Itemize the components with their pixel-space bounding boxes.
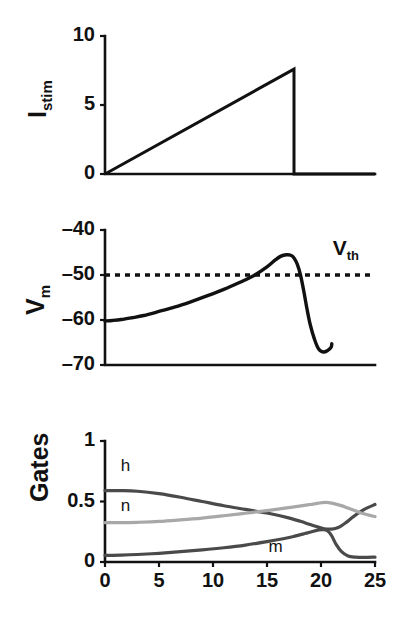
axis-title-sub: stim <box>38 80 55 111</box>
axis-title-main: I <box>23 111 51 118</box>
panel-gating-variables: Gates 00.510510152025 hnm <box>0 400 401 624</box>
y-tick-label: 1 <box>84 428 95 450</box>
y-tick-labels-istim: 0510 <box>73 23 95 183</box>
y-tick-label: –50 <box>62 262 95 284</box>
axis-title-main: Gates <box>25 433 53 502</box>
y-tick-label: –40 <box>62 217 95 239</box>
y-tick-label: 0.5 <box>67 489 95 511</box>
y-tick-label: –60 <box>62 307 95 329</box>
trace-group-istim <box>105 69 375 174</box>
tick-labels-gates: 00.510510152025 <box>67 428 386 591</box>
y-axis-title-vm: Vm <box>21 285 53 315</box>
stimulus-current-plot: Istim 0510 <box>0 0 401 205</box>
y-tick-labels-vm: –70–60–50–40 <box>62 217 95 374</box>
panel-membrane-voltage: Vm –70–60–50–40 Vth <box>0 205 401 400</box>
x-tick-label: 10 <box>202 569 224 591</box>
x-tick-label: 5 <box>153 569 164 591</box>
trace-V_m <box>105 255 332 352</box>
curve-labels-gates: hnm <box>121 456 283 555</box>
axis-spines <box>105 36 375 174</box>
y-axis-title-istim: Istim <box>23 80 55 118</box>
threshold-label-vth: Vth <box>333 236 359 263</box>
axis-title-main: V <box>21 298 49 315</box>
panel-stimulus-current: Istim 0510 <box>0 0 401 205</box>
y-tick-label: 10 <box>73 23 95 45</box>
y-tick-label: –70 <box>62 352 95 374</box>
trace-m <box>105 530 375 558</box>
y-tick-label: 0 <box>84 161 95 183</box>
curve-label-h: h <box>121 456 130 475</box>
x-tick-label: 20 <box>310 569 332 591</box>
y-tick-label: 5 <box>84 92 95 114</box>
trace-group-vm <box>105 255 332 352</box>
trace-I_stim <box>105 69 375 174</box>
y-tick-label: 0 <box>84 549 95 571</box>
trace-group-gates <box>105 491 375 558</box>
axis-title-sub: m <box>36 285 53 298</box>
x-tick-label: 0 <box>99 569 110 591</box>
membrane-voltage-plot: Vm –70–60–50–40 Vth <box>0 205 401 400</box>
x-tick-label: 25 <box>364 569 386 591</box>
trace-n <box>105 502 375 522</box>
curve-label-m: m <box>269 537 283 556</box>
gating-variables-plot: Gates 00.510510152025 hnm <box>0 400 401 624</box>
x-tick-label: 15 <box>256 569 278 591</box>
svg-text:Vm: Vm <box>21 285 53 315</box>
y-axis-title-gates: Gates <box>25 433 53 502</box>
figure-panel-stack: Istim 0510 Vm –70–60–50–40 Vth <box>0 0 401 624</box>
curve-label-n: n <box>121 496 130 515</box>
svg-text:Gates: Gates <box>25 433 53 502</box>
svg-text:Istim: Istim <box>23 80 55 118</box>
